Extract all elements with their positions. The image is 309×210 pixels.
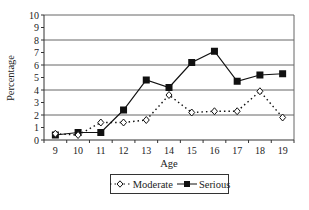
x-tick-label: 17: [232, 145, 242, 156]
x-tick-label: 11: [96, 145, 106, 156]
y-tick-label: 7: [34, 47, 39, 58]
y-tick-label: 8: [34, 35, 39, 46]
solid-square-icon: [177, 179, 197, 189]
legend-label-serious: Serious: [199, 179, 231, 190]
y-tick-label: 6: [34, 60, 39, 71]
legend-item-moderate: Moderate: [109, 179, 173, 190]
y-tick-label: 3: [34, 97, 39, 108]
x-tick-label: 16: [209, 145, 219, 156]
y-tick-label: 1: [34, 122, 39, 133]
dotted-diamond-icon: [109, 179, 131, 189]
serious-marker: [234, 78, 241, 85]
x-axis: 910111213141516171819: [44, 140, 294, 156]
legend: Moderate Serious: [110, 174, 229, 194]
x-tick-label: 14: [164, 145, 174, 156]
x-tick-label: 13: [141, 145, 151, 156]
moderate-marker: [211, 108, 217, 115]
y-axis-title: Percentage: [5, 55, 16, 101]
serious-marker: [97, 129, 104, 136]
serious-marker: [279, 70, 286, 77]
x-tick-label: 19: [278, 145, 288, 156]
data-series: [52, 48, 286, 139]
y-tick-label: 5: [34, 72, 39, 83]
serious-marker: [211, 48, 218, 55]
y-axis: 012345678910: [29, 10, 44, 146]
x-tick-label: 9: [53, 145, 58, 156]
legend-label-moderate: Moderate: [133, 179, 173, 190]
serious-marker: [120, 107, 127, 114]
serious-marker: [188, 59, 195, 66]
moderate-marker: [98, 119, 104, 126]
x-tick-label: 12: [119, 145, 129, 156]
serious-marker: [143, 77, 150, 84]
y-tick-label: 9: [34, 22, 39, 33]
serious-marker: [166, 84, 173, 91]
x-tick-label: 15: [187, 145, 197, 156]
y-tick-label: 0: [34, 135, 39, 146]
x-axis-title: Age: [160, 158, 178, 169]
x-tick-label: 18: [255, 145, 265, 156]
y-tick-label: 4: [34, 85, 39, 96]
x-tick-label: 10: [73, 145, 83, 156]
legend-item-serious: Serious: [177, 179, 231, 190]
y-tick-label: 2: [34, 110, 39, 121]
moderate-marker: [234, 108, 240, 115]
y-tick-label: 10: [29, 10, 39, 21]
moderate-marker: [121, 119, 127, 126]
serious-marker: [256, 72, 263, 79]
moderate-marker: [143, 117, 149, 124]
moderate-marker: [257, 88, 263, 95]
